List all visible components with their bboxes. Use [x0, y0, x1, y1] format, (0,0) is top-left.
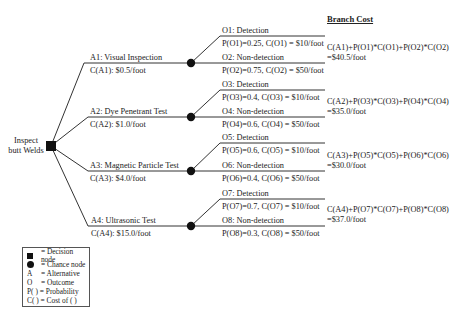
alternative-cost: C(A4): $15.0/foot	[91, 230, 151, 238]
chance-node-icon	[187, 59, 195, 67]
branch-value: =$37.0/foot	[327, 216, 366, 224]
outcome-prob-cost: P(O3)=0.4, C(O3) = $10/foot	[222, 94, 320, 102]
chance-node-icon	[27, 261, 34, 268]
legend-row-outcome: O = Outcome	[27, 278, 89, 287]
outcome-prob-cost: P(O5)=0.6, C(O5) = $10/foot	[222, 147, 320, 155]
decision-node-icon	[27, 253, 33, 259]
legend-row-chance: = Chance node	[27, 260, 89, 269]
branch-formula: C(A1)+P(O1)*C(O1)+P(O2)*C(O2)	[327, 44, 449, 52]
chance-node-icon	[187, 222, 195, 230]
outcome-prob-cost: P(O8)=0.3, C(O8) = $50/foot	[222, 230, 320, 238]
outcome-label: O4: Non-detection	[222, 108, 284, 116]
outcome-label: O1: Detection	[222, 27, 269, 35]
branch-formula: C(A2)+P(O3)*C(O3)+P(O4)*C(O4)	[327, 98, 449, 106]
legend: = Decision node = Chance node A = Altern…	[22, 247, 90, 307]
root-label-line2: butt Welds	[5, 147, 47, 155]
legend-row-decision: = Decision node	[27, 251, 89, 260]
alternative-label: A1: Visual Inspection	[90, 54, 162, 62]
outcome-prob-cost: P(O6)=0.4, C(O6) = $50/foot	[222, 175, 320, 183]
alternative-label: A3: Magnetic Particle Test	[90, 162, 179, 170]
outcome-label: O3: Detection	[222, 81, 269, 89]
branch-formula: C(A3)+P(O5)*C(O5)+P(O6)*C(O6)	[327, 152, 449, 160]
outcome-label: O6: Non-detection	[222, 162, 284, 170]
outcome-prob-cost: P(O2)=0.75, C(O2) = $50/foot	[222, 67, 324, 75]
legend-row-cost: C( ) = Cost of ( )	[27, 296, 89, 305]
alternative-cost: C(A2): $1.0/foot	[90, 121, 146, 129]
outcome-prob-cost: P(O7)=0.7, C(O7) = $10/foot	[222, 203, 320, 211]
alternative-label: A4: Ultrasonic Test	[91, 217, 156, 225]
root-label-line1: Inspect	[9, 137, 43, 145]
outcome-label: O5: Detection	[222, 134, 269, 142]
branch-cost-header: Branch Cost	[327, 15, 373, 24]
outcome-label: O8: Non-detection	[222, 217, 284, 225]
outcome-prob-cost: P(O1)=0.25, C(O1) = $10/foot	[222, 40, 324, 48]
outcome-label: O7: Detection	[222, 190, 269, 198]
chance-node-icon	[187, 167, 195, 175]
branch-value: =$30.0/foot	[327, 162, 366, 170]
alternative-cost: C(A3): $4.0/foot	[90, 175, 146, 183]
alternative-label: A2: Dye Penetrant Test	[90, 108, 167, 116]
chance-node-icon	[187, 113, 195, 121]
decision-node-icon	[46, 141, 56, 151]
outcome-prob-cost: P(O4)=0.6, C(O4) = $50/foot	[222, 121, 320, 129]
legend-row-alternative: A = Alternative	[27, 269, 89, 278]
branch-value: =$40.5/foot	[327, 54, 366, 62]
branch-value: =$35.0/foot	[327, 108, 366, 116]
outcome-label: O2: Non-detection	[222, 54, 284, 62]
branch-formula: C(A4)+P(O7)*C(O7)+P(O8)*C(O8)	[327, 206, 449, 214]
legend-row-probability: P( ) = Probability	[27, 287, 89, 296]
alternative-cost: C(A1): $0.5/foot	[90, 67, 146, 75]
